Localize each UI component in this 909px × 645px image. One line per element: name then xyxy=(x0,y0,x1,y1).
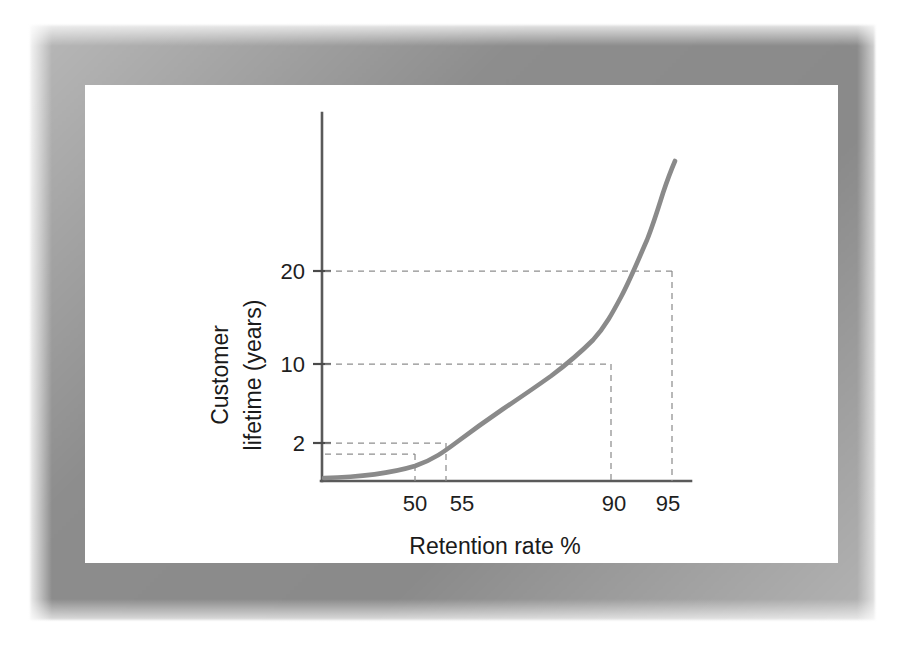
y-tick-label-2: 2 xyxy=(293,431,305,456)
retention-lifetime-chart: 20 10 2 50 55 90 95 Retention rate % Cus… xyxy=(85,85,838,563)
y-tick-label-20: 20 xyxy=(281,259,305,284)
y-axis-title-line1: Customer xyxy=(207,325,233,425)
x-axis-title: Retention rate % xyxy=(409,533,580,559)
x-tick-label-50: 50 xyxy=(403,491,427,516)
x-tick-label-90: 90 xyxy=(602,491,626,516)
y-tick-label-10: 10 xyxy=(281,352,305,377)
y-axis-title-line2: lifetime (years) xyxy=(240,300,266,451)
x-tick-label-55: 55 xyxy=(450,491,474,516)
figure-panel: 20 10 2 50 55 90 95 Retention rate % Cus… xyxy=(85,85,838,563)
x-tick-label-95: 95 xyxy=(656,491,680,516)
lifetime-curve xyxy=(324,161,675,478)
scanned-figure-page: 20 10 2 50 55 90 95 Retention rate % Cus… xyxy=(0,0,909,645)
